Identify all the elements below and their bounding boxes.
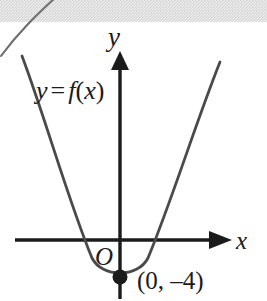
function-label: y=f(x) [36, 78, 104, 104]
function-label-close-paren: ) [96, 76, 105, 105]
function-label-variable: x [84, 76, 96, 105]
function-label-equals: = [51, 76, 66, 105]
function-label-open-paren: ( [75, 76, 84, 105]
y-axis-arrowhead [111, 51, 129, 70]
x-axis-label: x [236, 228, 247, 253]
adjacent-figure-curve-fragment-path [1, 0, 57, 56]
vertex-point-marker [113, 270, 128, 285]
vertex-point-label: (0, –4) [137, 268, 204, 293]
function-label-lhs: y [36, 76, 48, 105]
coordinate-plane-graphic [0, 0, 267, 301]
origin-label: O [95, 244, 113, 269]
x-axis-arrowhead [209, 231, 232, 249]
parabola-figure: y x y=f(x) O (0, –4) [0, 0, 267, 301]
y-axis-label: y [108, 24, 120, 51]
